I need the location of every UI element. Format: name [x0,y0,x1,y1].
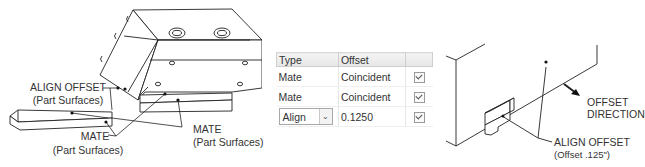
constraint-table: Type Offset Mate Coincident Mate Coincid… [276,52,433,127]
mate-left-label: MATE [80,130,110,142]
table-header-row: Type Offset [277,53,433,67]
type-cell[interactable]: Mate [277,87,339,107]
align-offset-label: ALIGN OFFSET [554,136,630,148]
column-header-offset[interactable]: Offset [338,53,405,67]
table-row[interactable]: Mate Coincident [277,67,433,87]
offset-input[interactable]: 0.1250 [338,107,405,127]
tab-part [485,98,514,135]
table-row[interactable]: Align ⌄ 0.1250 [277,107,433,127]
row-checkbox[interactable] [414,112,425,123]
mate-right-sublabel: (Part Surfaces) [193,136,264,148]
column-header-flag [406,53,433,67]
table-row[interactable]: Mate Coincident [277,87,433,107]
loose-bar [10,110,112,130]
align-offset-sublabel: (Part Surfaces) [28,94,108,106]
align-offset-label: ALIGN OFFSET [30,81,102,93]
align-offset-value-label: (Offset .125") [554,149,610,161]
type-select[interactable]: Align ⌄ [279,108,333,125]
offset-cell[interactable]: Coincident [338,87,405,107]
mate-right-label: MATE [193,123,221,135]
offset-direction-label-2: DIRECTION [587,108,645,120]
chevron-down-icon[interactable]: ⌄ [319,109,332,124]
row-checkbox[interactable] [414,92,425,103]
mate-left-sublabel: (Part Surfaces) [48,144,128,156]
offset-figure: OFFSET DIRECTION ALIGN OFFSET (Offset .1… [440,0,645,167]
column-header-type[interactable]: Type [277,53,339,67]
type-cell[interactable]: Mate [277,67,339,87]
type-select-value: Align [280,111,319,123]
row-checkbox[interactable] [414,72,425,83]
offset-cell[interactable]: Coincident [338,67,405,87]
housing-block [100,9,262,100]
offset-direction-label: OFFSET [587,96,628,108]
assembly-figure: ALIGN OFFSET (Part Surfaces) MATE (Part … [0,0,262,167]
